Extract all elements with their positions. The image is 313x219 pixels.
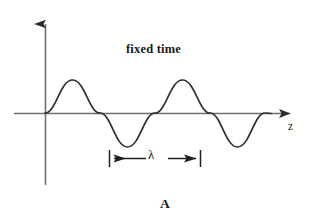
x-axis-title: z xyxy=(288,121,293,133)
fixed-time-annotation: fixed time xyxy=(126,43,181,56)
wavelength-symbol-label: λ xyxy=(148,148,154,161)
wave-diagram-figure: Pressure, Pascal fixed time z λ A xyxy=(0,0,313,219)
panel-letter-label: A xyxy=(160,197,170,211)
wave-diagram-canvas xyxy=(0,0,313,219)
